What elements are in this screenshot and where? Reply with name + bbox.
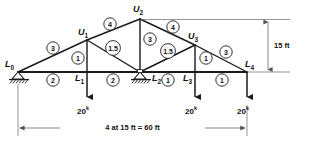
member-number-U3-L4: 3 — [220, 49, 232, 56]
support-L0 — [9, 72, 29, 83]
joint-label-L4: L4 — [245, 60, 254, 71]
joint-label-U1: U1 — [78, 28, 88, 39]
height-dimension-label: 15 ft — [274, 42, 289, 50]
member-number-L3-L4: 1 — [216, 77, 228, 84]
load-label-L4: 20k — [237, 106, 249, 116]
truss-diagram-figure: L0 L1 L2 L3 L4 U1 U2 U3 3 4 4 3 1 3 1 1.… — [0, 0, 313, 147]
joint-plate-L2 — [138, 70, 143, 73]
member-number-U2-U3: 4 — [167, 24, 179, 31]
member-number-U1-L2: 1.5 — [104, 45, 122, 52]
support-L2 — [131, 72, 151, 83]
load-label-L1: 20k — [77, 106, 89, 116]
joint-label-U3: U3 — [188, 32, 198, 43]
member-number-U1-U2: 4 — [104, 21, 116, 28]
span-dimension-label: 4 at 15 ft = 60 ft — [64, 124, 201, 132]
member-number-L2-L3: 1 — [162, 77, 174, 84]
joint-label-L3: L3 — [183, 74, 192, 85]
member-number-L0-L1: 2 — [47, 77, 59, 84]
member-number-L0-U1: 3 — [47, 45, 59, 52]
joint-label-L0: L0 — [5, 60, 14, 71]
joint-label-L2: L2 — [152, 74, 161, 85]
member-number-U2-L3: 1.5 — [159, 48, 177, 55]
member-number-U2-L2: 3 — [144, 36, 156, 43]
member-number-U1-L1: 1 — [72, 55, 84, 62]
member-number-L1-L2: 2 — [107, 77, 119, 84]
joint-label-U2: U2 — [133, 5, 143, 16]
member-number-U3-L3: 1 — [200, 55, 212, 62]
load-label-L3: 20k — [185, 106, 197, 116]
joint-label-L1: L1 — [75, 74, 84, 85]
